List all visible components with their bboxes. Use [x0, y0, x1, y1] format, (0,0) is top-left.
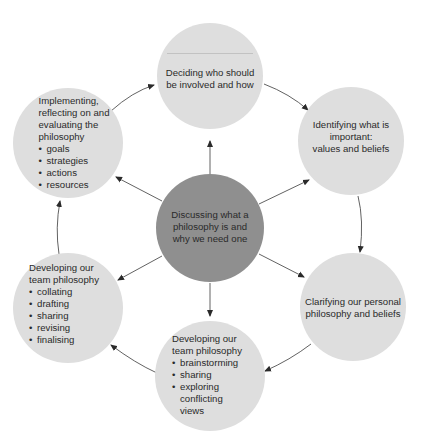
bullet-list: goals strategies actions resources [39, 143, 110, 191]
node-text: Identifying what is important: values an… [313, 119, 390, 155]
node-developing-team-collating: Developing our team philosophy collating… [13, 253, 123, 363]
node-text: Clarifying our personal philosophy and b… [305, 296, 401, 320]
arrow-top-to-top-right [264, 84, 308, 110]
node-clarifying-personal: Clarifying our personal philosophy and b… [300, 253, 406, 361]
arrow-bottom-left-to-top-left [57, 201, 60, 254]
arrow-center-to-bottom-left [118, 256, 162, 280]
node-deciding-who: Deciding who should be involved and how [157, 23, 263, 129]
bullet-list: collating drafting sharing revising fina… [29, 286, 99, 346]
arrow-center-to-top-right [259, 180, 309, 204]
node-text: Developing our team philosophy collating… [29, 262, 99, 346]
divider-line [167, 53, 253, 54]
arrow-top-left-to-top [111, 85, 154, 111]
node-identifying-values: Identifying what is important: values an… [298, 87, 404, 195]
bullet-list: brainstorming sharing exploring conflict… [172, 357, 242, 417]
node-implementing-evaluating: Implementing, reflecting on and evaluati… [13, 88, 123, 198]
bullet-exploring: exploring conflicting views [172, 381, 240, 417]
node-text: Developing our team philosophy brainstor… [172, 333, 242, 417]
arrow-center-to-bottom-right [259, 254, 304, 277]
arrow-top-right-to-bottom-right [358, 196, 362, 252]
arrow-bottom-right-to-bottom [265, 344, 311, 371]
node-text: Discussing what a philosophy is and why … [171, 209, 248, 245]
arrow-bottom-to-bottom-left [111, 345, 157, 373]
node-center-discussing: Discussing what a philosophy is and why … [156, 174, 264, 282]
node-text: Implementing, reflecting on and evaluati… [39, 95, 110, 191]
node-text: Deciding who should be involved and how [166, 67, 255, 91]
node-developing-team-brainstorm: Developing our team philosophy brainstor… [155, 321, 265, 431]
arrow-center-to-top-left [116, 177, 162, 201]
